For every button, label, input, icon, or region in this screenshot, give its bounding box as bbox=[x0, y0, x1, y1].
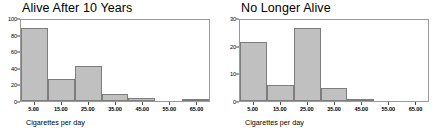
bar-slot bbox=[294, 20, 321, 101]
x-axis-tick-label: 25.00 bbox=[81, 106, 95, 112]
bar-slot bbox=[128, 20, 155, 101]
bar-slot bbox=[75, 20, 102, 101]
histogram-bar bbox=[267, 85, 294, 101]
plot-area bbox=[239, 19, 429, 102]
bar-slot bbox=[21, 20, 48, 101]
x-axis-label: Cigarettes per day bbox=[245, 118, 304, 127]
x-axis-tick-mark bbox=[142, 102, 143, 105]
histogram-bar bbox=[75, 66, 102, 101]
x-axis-tick-mark bbox=[88, 102, 89, 105]
x-axis-tick-mark bbox=[334, 102, 335, 105]
bar-slot bbox=[267, 20, 294, 101]
x-axis-tick-label: 45.00 bbox=[354, 106, 368, 112]
x-axis-tick-label: 55.00 bbox=[382, 106, 396, 112]
x-axis-tick-mark bbox=[253, 102, 254, 105]
bar-slot bbox=[374, 20, 401, 101]
histogram-bar bbox=[21, 28, 48, 101]
bar-series bbox=[21, 20, 209, 101]
x-axis: 5.0015.0025.0035.0045.0055.0065.00 bbox=[20, 102, 210, 116]
x-axis-tick-mark bbox=[61, 102, 62, 105]
x-axis-tick-label: 5.00 bbox=[247, 106, 258, 112]
histogram-pair-figure: Alive After 10 Years 020406080100 5.0015… bbox=[0, 0, 438, 138]
histogram-bar bbox=[102, 94, 129, 101]
x-axis-tick-mark bbox=[361, 102, 362, 105]
x-axis-tick-mark bbox=[169, 102, 170, 105]
bar-slot bbox=[102, 20, 129, 101]
x-axis-tick-mark bbox=[196, 102, 197, 105]
x-axis-tick-label: 15.00 bbox=[273, 106, 287, 112]
histogram-bar bbox=[294, 28, 321, 101]
x-axis-tick-mark bbox=[415, 102, 416, 105]
chart-panel-no-longer-alive: No Longer Alive 0102030 5.0015.0025.0035… bbox=[219, 0, 438, 138]
chart-panel-alive-after-10-years: Alive After 10 Years 020406080100 5.0015… bbox=[0, 0, 219, 138]
histogram-bar bbox=[240, 42, 267, 101]
x-axis-tick-label: 55.00 bbox=[163, 106, 177, 112]
x-axis-tick-mark bbox=[280, 102, 281, 105]
bar-series bbox=[240, 20, 428, 101]
bar-slot bbox=[401, 20, 428, 101]
x-axis-tick-mark bbox=[307, 102, 308, 105]
chart-title: Alive After 10 Years bbox=[22, 1, 132, 15]
chart-title: No Longer Alive bbox=[241, 1, 331, 15]
x-axis: 5.0015.0025.0035.0045.0055.0065.00 bbox=[239, 102, 429, 116]
histogram-bar bbox=[321, 88, 348, 102]
x-axis-tick-label: 25.00 bbox=[300, 106, 314, 112]
y-axis: 020406080100 bbox=[0, 19, 20, 102]
y-axis: 0102030 bbox=[219, 19, 239, 102]
bar-slot bbox=[240, 20, 267, 101]
x-axis-tick-label: 65.00 bbox=[409, 106, 423, 112]
x-axis-tick-mark bbox=[388, 102, 389, 105]
histogram-bar bbox=[128, 98, 155, 101]
x-axis-tick-label: 35.00 bbox=[327, 106, 341, 112]
bar-slot bbox=[347, 20, 374, 101]
x-axis-tick-label: 65.00 bbox=[190, 106, 204, 112]
x-axis-label: Cigarettes per day bbox=[26, 118, 85, 127]
bar-slot bbox=[321, 20, 348, 101]
histogram-bar bbox=[182, 99, 209, 101]
x-axis-tick-mark bbox=[34, 102, 35, 105]
bar-slot bbox=[182, 20, 209, 101]
histogram-bar bbox=[48, 79, 75, 101]
plot-area bbox=[20, 19, 210, 102]
y-axis-tick-label: 100 bbox=[8, 16, 17, 22]
bar-slot bbox=[155, 20, 182, 101]
x-axis-tick-mark bbox=[115, 102, 116, 105]
x-axis-tick-label: 15.00 bbox=[54, 106, 68, 112]
histogram-bar bbox=[347, 99, 374, 101]
x-axis-tick-label: 35.00 bbox=[108, 106, 122, 112]
x-axis-tick-label: 5.00 bbox=[28, 106, 39, 112]
x-axis-tick-label: 45.00 bbox=[135, 106, 149, 112]
bar-slot bbox=[48, 20, 75, 101]
